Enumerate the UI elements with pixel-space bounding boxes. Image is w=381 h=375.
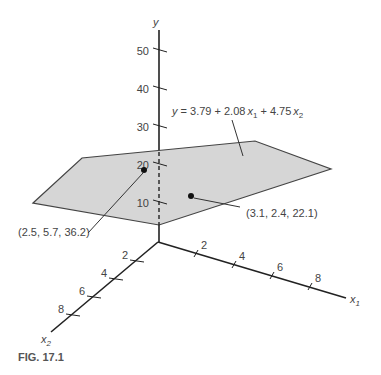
y-tick-10: 10: [137, 197, 149, 209]
y-tick-30: 30: [137, 121, 149, 133]
x1-axis: [158, 242, 346, 298]
x2-tick-4: 4: [101, 267, 107, 279]
x1-axis-tick-labels: 2 4 6 8: [201, 239, 321, 284]
plane-equation-label: y = 3.79 + 2.08x1 + 4.75x2: [171, 105, 304, 120]
x1-tick-8: 8: [315, 272, 321, 284]
figure-caption: FIG. 17.1: [18, 351, 64, 363]
x1-tick-6: 6: [277, 261, 283, 273]
y-tick-50: 50: [137, 45, 149, 57]
x1-tick-2: 2: [201, 239, 207, 251]
x2-axis-tick-labels: 2 4 6 8: [58, 249, 128, 315]
x2-axis: [51, 242, 158, 332]
x2-tick-8: 8: [58, 303, 64, 315]
x2-axis-label: x2: [40, 333, 52, 348]
x1-tick-4: 4: [239, 250, 245, 262]
y-axis-label: y: [152, 16, 160, 28]
point-1-label: (2.5, 5.7, 36.2): [18, 226, 90, 238]
point-2-label: (3.1, 2.4, 22.1): [246, 207, 318, 219]
y-tick-40: 40: [137, 83, 149, 95]
data-point-1: [141, 167, 147, 173]
x1-axis-label: x1: [349, 293, 360, 308]
x2-tick-6: 6: [79, 285, 85, 297]
regression-plane-diagram: 50 40 30 20 10 y 2 4 6 8 x1 2 4 6 8 x2 y…: [0, 0, 381, 375]
data-point-2: [188, 193, 194, 199]
x2-tick-2: 2: [122, 249, 128, 261]
